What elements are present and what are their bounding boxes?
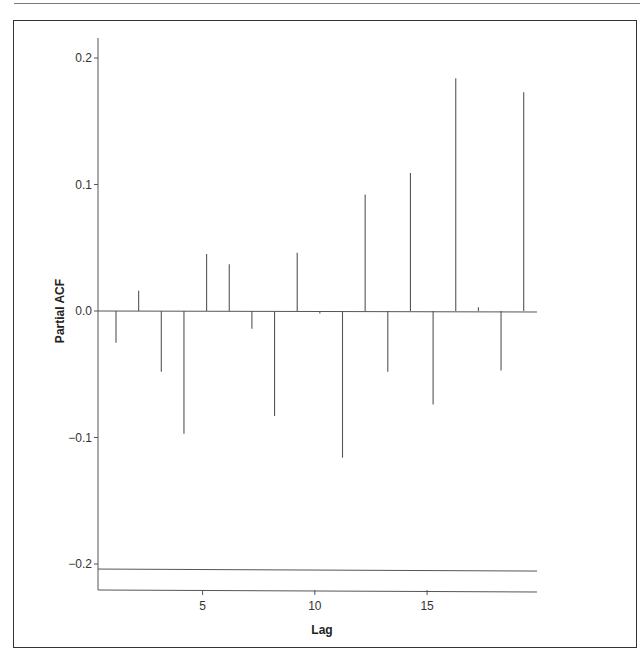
pacf-chart: 0.20.10.0−0.1−0.251015 Partial ACF Lag <box>0 0 644 670</box>
x-tick-label: 10 <box>308 599 322 613</box>
pacf-bars <box>116 78 524 458</box>
x-tick-label: 5 <box>199 599 206 613</box>
y-tick-label: −0.1 <box>68 431 92 445</box>
y-tick-label: 0.1 <box>75 178 92 192</box>
axes: 0.20.10.0−0.1−0.251015 <box>68 38 537 613</box>
x-axis-line <box>98 590 537 592</box>
x-axis-title: Lag <box>311 623 332 637</box>
y-tick-label: −0.2 <box>68 557 92 571</box>
y-tick-label: 0.2 <box>75 51 92 65</box>
x-tick-label: 15 <box>420 599 434 613</box>
lower-bound-line <box>98 569 537 571</box>
zero-line <box>98 311 537 312</box>
y-tick-label: 0.0 <box>75 304 92 318</box>
y-axis-title: Partial ACF <box>53 279 67 343</box>
